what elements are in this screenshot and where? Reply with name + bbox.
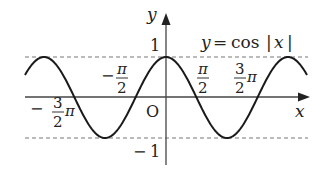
function-label: y = cos | x |: [200, 32, 293, 52]
svg-text:x: x: [274, 32, 284, 52]
svg-text:|: |: [266, 32, 272, 52]
x-tick-half-pi: π 2: [197, 60, 209, 97]
svg-text:2: 2: [198, 79, 208, 97]
svg-text:cos: cos: [231, 32, 259, 52]
svg-text:=: =: [213, 32, 227, 52]
svg-text:2: 2: [235, 79, 245, 97]
x-tick-neg-half-pi: − π 2: [101, 60, 128, 97]
cos-abs-x-graph: y x O 1 − 1 y = cos | x | − π 2 − 3 2 π …: [0, 0, 334, 175]
y-tick-minus-1: 1: [150, 142, 160, 161]
svg-text:π: π: [197, 60, 209, 78]
origin-label: O: [146, 102, 159, 121]
svg-text:y: y: [200, 32, 211, 52]
x-tick-three-half-pi: 3 2 π: [234, 60, 258, 97]
y-tick-minus-sign: −: [133, 142, 146, 161]
svg-text:2: 2: [117, 79, 127, 97]
svg-text:π: π: [116, 60, 128, 78]
svg-text:π: π: [64, 102, 76, 120]
x-axis-label: x: [295, 101, 305, 121]
svg-text:π: π: [246, 68, 258, 86]
svg-text:3: 3: [235, 60, 245, 78]
y-axis-label: y: [146, 4, 157, 24]
y-tick-1: 1: [150, 36, 160, 55]
svg-text:−: −: [101, 66, 114, 85]
svg-text:2: 2: [53, 113, 63, 131]
svg-text:|: |: [287, 32, 293, 52]
x-tick-neg-three-half-pi: − 3 2 π: [30, 94, 76, 131]
svg-text:−: −: [30, 99, 43, 118]
y-axis-arrow-icon: [162, 13, 171, 25]
svg-text:3: 3: [53, 94, 63, 112]
